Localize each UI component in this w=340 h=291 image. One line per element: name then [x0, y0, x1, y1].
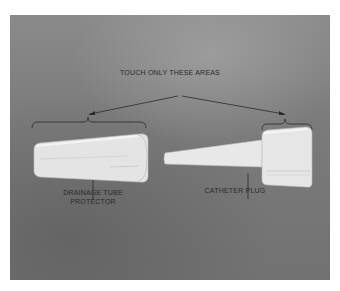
drainage-tube-protector-label: DRAINAGE TUBE PROTECTOR [38, 188, 148, 206]
label-line-1: CATHETER PLUG [180, 186, 290, 195]
left-bracket-icon [32, 117, 146, 128]
header-label: TOUCH ONLY THESE AREAS [110, 68, 230, 77]
label-line-1: DRAINAGE TUBE [38, 188, 148, 197]
label-line-2: PROTECTOR [38, 197, 148, 206]
photograph [10, 15, 330, 280]
left-arrow-icon [88, 96, 178, 115]
catheter-plug-shape [164, 127, 312, 187]
catheter-plug-label: CATHETER PLUG [180, 186, 290, 195]
right-arrow-icon [182, 96, 286, 115]
figure-illustration [10, 15, 330, 280]
drainage-tube-protector-shape [34, 134, 148, 182]
